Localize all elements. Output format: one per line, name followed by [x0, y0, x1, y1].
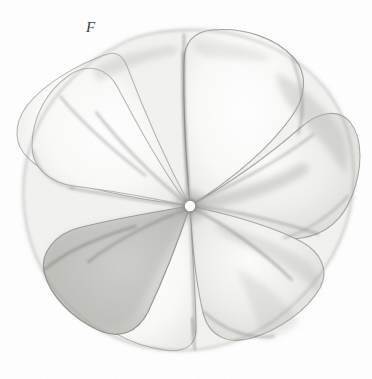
botanical-plate: F [0, 0, 372, 379]
flower-illustration [0, 0, 372, 379]
paper-grain-overlay [0, 0, 372, 379]
